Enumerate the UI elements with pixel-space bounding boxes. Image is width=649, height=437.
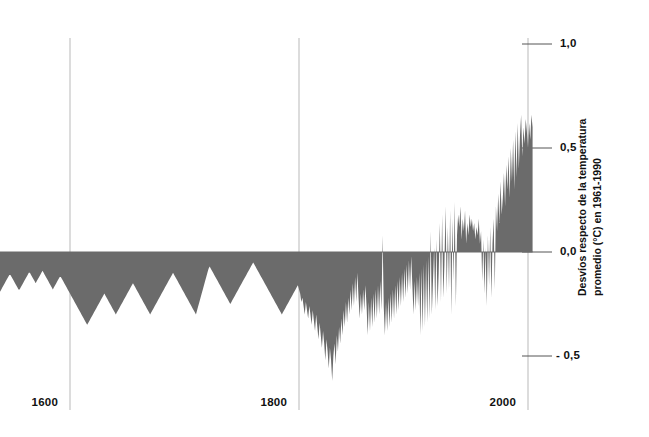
xtick-label-1800: 1800: [243, 396, 287, 408]
temperature-anomaly-chart: 1600 1800 2000 1,0 0,5 0,0 - 0,5 Desvíos…: [0, 0, 649, 437]
chart-canvas: [0, 0, 649, 437]
y-axis-title: Desvíos respecto de la temperatura prome…: [575, 0, 605, 100]
xtick-label-2000: 2000: [472, 396, 516, 408]
temperature-area-series: [0, 115, 533, 381]
y-axis-title-line-2: promedio (°C) en 1961-1990: [591, 158, 603, 296]
ytick-label--0.5: - 0,5: [556, 349, 580, 361]
y-axis-title-line-1: Desvíos respecto de la temperatura: [576, 119, 588, 296]
xtick-label-1600: 1600: [14, 396, 58, 408]
gridlines: [70, 38, 528, 410]
